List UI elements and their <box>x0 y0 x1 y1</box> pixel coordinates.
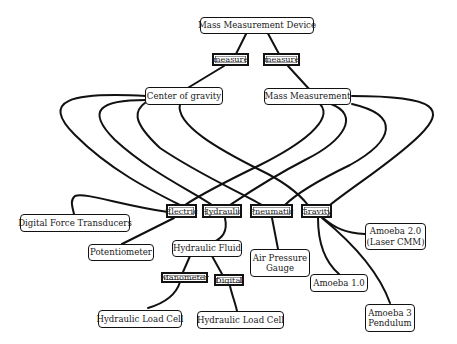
relation-tag-manometer: Manometer <box>161 272 208 283</box>
concept-map-diagram: Mass Measurement Device measure measure … <box>0 0 457 344</box>
node-label: Hydraulic Load Cell <box>197 315 284 326</box>
edge-hydraulic-fluid <box>214 218 226 242</box>
edge-cog-hydraulic <box>99 100 212 205</box>
category-tag-electric: Electric <box>166 204 197 218</box>
category-label: Pneumatic <box>249 206 293 217</box>
root-node-label: Mass Measurement Device <box>198 20 316 31</box>
edge-mm-gravity <box>330 96 433 205</box>
category-tag-pneumatic: Pneumatic <box>250 204 293 218</box>
edge-measure-mass-measurement <box>288 66 310 90</box>
node-label: Hydraulic Load Cell <box>96 314 183 325</box>
node-label: Amoeba 2.0 (Laser CMM) <box>366 226 425 247</box>
node-hydraulic-fluid: Hydraulic Fluid <box>172 240 242 257</box>
node-label: Potentiometer <box>90 247 152 258</box>
node-label: Air Pressure Gauge <box>251 253 309 274</box>
edge-gravity-amoeba2 <box>323 218 365 234</box>
node-hydraulic-load-cell-manometer: Hydraulic Load Cell <box>98 310 182 328</box>
node-label: Center of gravity <box>147 91 221 102</box>
edge-fluid-digital <box>212 256 222 274</box>
node-hydraulic-load-cell-digital: Hydraulic Load Cell <box>197 311 284 329</box>
edge-digital-loadcell <box>230 286 237 311</box>
edge-pneumatic-airgauge <box>272 218 278 249</box>
node-label: Hydraulic Fluid <box>173 243 241 254</box>
node-mass-measurement: Mass Measurement <box>264 88 351 105</box>
relation-tag-measure-right: measure <box>263 53 300 66</box>
edge-electric-dft <box>72 195 168 214</box>
node-air-pressure-gauge: Air Pressure Gauge <box>250 249 310 277</box>
category-label: Electric <box>165 206 197 217</box>
node-label: Amoeba 3 Pendulum <box>366 308 414 329</box>
node-amoeba-3-pendulum: Amoeba 3 Pendulum <box>365 304 415 332</box>
edge-fluid-manometer <box>183 256 190 272</box>
relation-tag-digital: Digital <box>214 274 244 286</box>
edge-mm-pneumatic <box>285 104 386 205</box>
category-tag-hydraulic: Hydraulic <box>202 204 242 218</box>
root-node-mass-measurement-device: Mass Measurement Device <box>200 17 314 34</box>
category-label: Hydraulic <box>202 206 243 217</box>
node-label: Digital Force Transducers <box>18 218 132 229</box>
node-potentiometer: Potentiometer <box>88 244 154 261</box>
node-label: Mass Measurement <box>265 91 351 102</box>
relation-tag-label: measure <box>213 54 249 65</box>
node-label: Amoeba 1.0 <box>313 278 365 289</box>
relation-tag-measure-left: measure <box>212 53 249 66</box>
node-amoeba-2-laser-cmm: Amoeba 2.0 (Laser CMM) <box>365 223 426 250</box>
edge-manometer-loadcell <box>148 282 180 308</box>
node-center-of-gravity: Center of gravity <box>145 87 223 105</box>
relation-tag-label: measure <box>264 54 300 65</box>
node-digital-force-transducers: Digital Force Transducers <box>20 214 130 232</box>
category-label: Gravity <box>301 206 332 217</box>
connector-lines <box>0 0 457 344</box>
edge-cog-pneumatic <box>137 102 262 205</box>
relation-tag-label: Digital <box>215 275 243 286</box>
node-amoeba-1: Amoeba 1.0 <box>310 274 368 292</box>
edge-mm-hydraulic <box>230 104 346 205</box>
edge-measure-center-of-gravity <box>186 66 224 89</box>
relation-tag-label: Manometer <box>160 272 208 283</box>
category-tag-gravity: Gravity <box>301 204 332 218</box>
edge-cog-gravity <box>180 104 308 205</box>
